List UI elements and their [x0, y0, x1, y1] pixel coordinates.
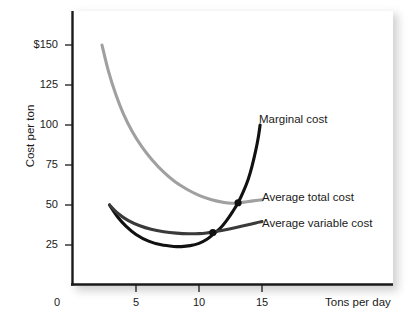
cost-curves-plot [0, 0, 410, 329]
y-axis-title: Cost per ton [24, 81, 36, 191]
curve-average-total-cost [102, 45, 262, 203]
y-tick-label: 50 [12, 198, 58, 210]
series-label-marginal-cost: Marginal cost [259, 113, 327, 125]
data-series-group [102, 45, 262, 247]
curve-average-variable-cost [110, 205, 262, 234]
x-tick-label: 0 [42, 296, 72, 308]
chart-figure: $150125100755025 051015 Marginal costAve… [0, 0, 410, 329]
mc-avc-intersection [209, 229, 216, 236]
x-tick-label: 5 [121, 296, 151, 308]
x-tick-label: 10 [184, 296, 214, 308]
x-axis-title: Tons per day [325, 296, 391, 308]
series-label-average-variable-cost: Average variable cost [262, 217, 372, 229]
mc-atc-intersection [234, 199, 241, 206]
y-tick-label: $150 [12, 38, 58, 50]
series-label-average-total-cost: Average total cost [262, 191, 354, 203]
y-tick-label: 25 [12, 238, 58, 250]
x-tick-label: 15 [247, 296, 277, 308]
axes-group [71, 11, 393, 286]
